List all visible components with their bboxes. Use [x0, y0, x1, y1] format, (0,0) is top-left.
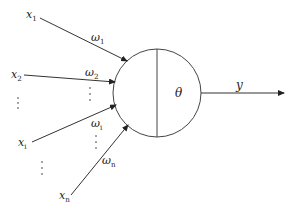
ellipsis-dot — [89, 99, 91, 101]
input-label-xi: xi — [18, 136, 27, 151]
weight-label-wn: ωn — [102, 154, 116, 169]
input-arrow-2 — [24, 75, 115, 82]
ellipsis-dot — [41, 167, 43, 169]
input-label-x1: x1 — [26, 8, 37, 23]
output-label: y — [235, 78, 243, 92]
input-arrow-1 — [40, 18, 127, 61]
weight-label-w1: ω1 — [91, 31, 105, 46]
ellipsis-dot — [17, 97, 19, 99]
threshold-label: θ — [175, 86, 183, 100]
neuron: θ — [113, 49, 201, 137]
input-arrow-n — [71, 125, 128, 195]
input-arrow-i — [32, 105, 116, 142]
ellipsis-dot — [95, 141, 97, 143]
input-arrows: x1x2xixn — [11, 8, 128, 204]
input-label-xn: xn — [59, 189, 70, 204]
ellipsis-dot — [17, 102, 19, 104]
input-label-x2: x2 — [11, 68, 22, 83]
weight-label-w2: ω2 — [85, 66, 99, 81]
ellipsis-dot — [89, 93, 91, 95]
ellipsis-dot — [89, 87, 91, 89]
ellipsis-dot — [41, 161, 43, 163]
output: y — [201, 78, 284, 93]
weight-label-wi: ωi — [91, 117, 103, 132]
neuron-diagram: θ x1x2xixn ω1ω2ωiωn y — [0, 0, 295, 214]
ellipsis-dot — [95, 147, 97, 149]
ellipsis-dot — [95, 135, 97, 137]
ellipsis-dot — [41, 173, 43, 175]
ellipsis-dot — [17, 107, 19, 109]
